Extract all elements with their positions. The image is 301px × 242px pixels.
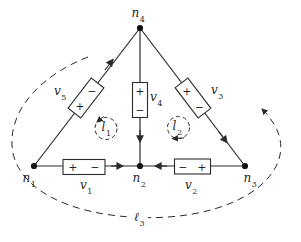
v5-plus-sign: + — [76, 100, 85, 111]
v2-minus-sign: − — [179, 161, 188, 172]
node-n3-dot — [242, 163, 248, 169]
label-source-v1: v1 — [80, 179, 92, 194]
v3-minus-sign: − — [195, 101, 204, 112]
circuit-diagram: n4 n1 n2 n3 v1 v2 v3 v4 v5 l1 l2 ℓ3 + − … — [0, 0, 301, 242]
label-node-n1-base: n — [23, 171, 31, 185]
label-source-v5: v5 — [54, 85, 66, 100]
label-loop-l1: l1 — [102, 121, 111, 136]
label-source-v3: v3 — [211, 84, 223, 99]
label-source-v4-sub: 4 — [157, 100, 162, 109]
label-source-v1-base: v — [80, 178, 87, 192]
diagram-artwork — [0, 0, 301, 242]
node-n4-dot — [137, 25, 143, 31]
label-source-v4: v4 — [150, 91, 162, 106]
label-loop-l3-base: ℓ — [134, 210, 139, 224]
label-node-n3: n3 — [244, 172, 257, 187]
node-n2-dot — [137, 163, 143, 169]
label-source-v2-sub: 2 — [192, 188, 197, 197]
label-source-v2: v2 — [185, 179, 197, 194]
label-node-n1: n1 — [23, 172, 36, 187]
loop-l3-arc — [12, 57, 281, 218]
loop-l2-arrow — [173, 138, 185, 139]
v4-minus-sign: − — [136, 104, 145, 115]
label-source-v1-sub: 1 — [87, 188, 92, 197]
label-source-v2-base: v — [185, 178, 192, 192]
label-source-v3-sub: 3 — [218, 93, 223, 102]
v5-minus-sign: − — [88, 85, 97, 96]
label-node-n2: n2 — [133, 172, 146, 187]
v4-plus-sign: + — [136, 86, 145, 97]
source-v5-box — [68, 78, 104, 118]
v1-plus-sign: + — [69, 162, 78, 173]
label-node-n2-base: n — [133, 171, 141, 185]
label-node-n3-base: n — [244, 171, 252, 185]
label-source-v4-base: v — [150, 90, 157, 104]
label-node-n4-sub: 4 — [140, 16, 145, 25]
label-loop-l3: ℓ3 — [130, 211, 148, 226]
source-v3-box — [175, 78, 211, 118]
label-node-n2-sub: 2 — [141, 181, 146, 190]
branch-arrow-n4-n3 — [219, 132, 227, 143]
v3-plus-sign: + — [183, 85, 192, 96]
v2-plus-sign: + — [198, 161, 207, 172]
label-loop-l2: l2 — [173, 120, 182, 135]
label-source-v5-base: v — [54, 84, 61, 98]
node-n1-dot — [31, 163, 37, 169]
label-loop-l2-sub: 2 — [177, 129, 182, 138]
label-source-v3-base: v — [211, 83, 218, 97]
v1-minus-sign: − — [91, 162, 100, 173]
label-loop-l3-sub: 3 — [139, 220, 144, 229]
label-loop-l1-sub: 1 — [106, 130, 111, 139]
label-node-n4: n4 — [132, 7, 145, 22]
label-node-n4-base: n — [132, 6, 140, 20]
label-node-n3-sub: 3 — [252, 181, 257, 190]
label-node-n1-sub: 1 — [31, 181, 36, 190]
label-source-v5-sub: 5 — [61, 94, 66, 103]
